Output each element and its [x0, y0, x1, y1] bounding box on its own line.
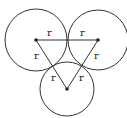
label-top-right: r	[80, 27, 85, 38]
label-top-left: r	[47, 27, 52, 38]
label-left-lower: r	[51, 72, 56, 83]
tangent-circles-diagram: r r r r r r	[0, 0, 127, 118]
label-right-upper: r	[94, 50, 99, 61]
label-left-upper: r	[34, 50, 39, 61]
center-dot-left	[34, 38, 38, 42]
center-dot-right	[96, 38, 100, 42]
center-dot-bottom	[65, 87, 69, 91]
label-right-lower: r	[79, 72, 84, 83]
